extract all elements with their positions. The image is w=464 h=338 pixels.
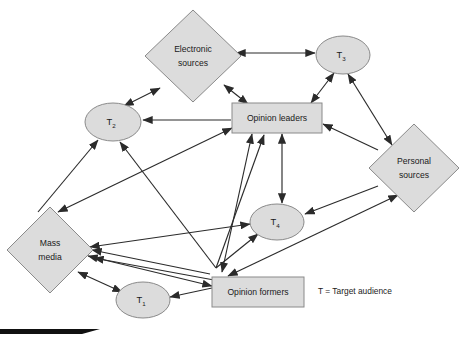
diagram-canvas: Electronic sources Mass media Personal s… bbox=[0, 0, 464, 338]
edge-mass-media-t2 bbox=[38, 140, 98, 212]
node-target-audience-4[interactable]: T4 bbox=[250, 204, 304, 240]
page-edge-artifact-taper bbox=[82, 329, 100, 334]
nodes-layer: Electronic sources Mass media Personal s… bbox=[7, 10, 459, 318]
page-edge-artifact bbox=[0, 329, 82, 334]
mass-media-diamond[interactable] bbox=[7, 207, 93, 293]
node-opinion-formers[interactable]: Opinion formers bbox=[212, 277, 304, 307]
edge-opinion-formers-t2 bbox=[120, 142, 216, 268]
edge-mass-media-t1 bbox=[78, 272, 122, 292]
personal-sources-label-line2: sources bbox=[399, 170, 429, 180]
node-target-audience-1[interactable]: T1 bbox=[116, 282, 170, 318]
mass-media-label-line1: Mass bbox=[40, 238, 61, 248]
edge-mass-media-hub-inbound bbox=[92, 250, 210, 274]
edge-personal-sources-opinion-formers bbox=[228, 195, 398, 276]
node-target-audience-2[interactable]: T2 bbox=[85, 103, 141, 141]
electronic-sources-label-line1: Electronic bbox=[174, 44, 212, 54]
node-target-audience-3[interactable]: T3 bbox=[316, 36, 370, 74]
personal-sources-diamond[interactable] bbox=[369, 124, 459, 212]
opinion-leaders-label: Opinion leaders bbox=[247, 113, 307, 123]
diagram-svg: Electronic sources Mass media Personal s… bbox=[0, 0, 464, 338]
node-opinion-leaders[interactable]: Opinion leaders bbox=[232, 103, 322, 133]
edge-electronic-opinion-leaders bbox=[224, 85, 248, 104]
mass-media-label-line2: media bbox=[38, 252, 62, 262]
edge-mass-media-t4 bbox=[90, 224, 250, 247]
legend-label: T = Target audience bbox=[318, 286, 392, 296]
opinion-formers-label: Opinion formers bbox=[227, 287, 288, 297]
edge-opinion-leaders-mass-media bbox=[58, 128, 232, 212]
edges-layer bbox=[38, 53, 398, 297]
personal-sources-label-line1: Personal bbox=[397, 156, 431, 166]
edge-electronic-t2 bbox=[124, 88, 160, 106]
legend: T = Target audience bbox=[318, 286, 392, 296]
edge-personal-sources-opinion-leaders bbox=[323, 124, 378, 150]
edge-t3-opinion-leaders bbox=[311, 73, 334, 103]
node-mass-media[interactable]: Mass media bbox=[7, 207, 93, 293]
electronic-sources-label-line2: sources bbox=[178, 58, 208, 68]
node-personal-sources[interactable]: Personal sources bbox=[369, 124, 459, 212]
edge-opinion-formers-t1 bbox=[170, 288, 212, 297]
edge-hub-mass-media-lower bbox=[94, 258, 214, 280]
edge-t3-personal-sources bbox=[348, 74, 392, 145]
